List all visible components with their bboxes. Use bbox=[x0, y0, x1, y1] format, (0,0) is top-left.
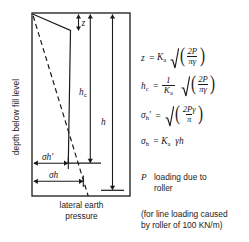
fraction-1-over-Ka: 1 Ka bbox=[162, 76, 175, 97]
footnote-line-2: by roller of 100 KN/m) bbox=[141, 220, 249, 231]
fraction-denominator-Ka: Ka bbox=[162, 85, 175, 96]
caption-line-2: pressure bbox=[32, 211, 131, 222]
legend-description: loading due to roller bbox=[154, 172, 207, 193]
formula-sigma-h-equals: = bbox=[153, 136, 158, 146]
left-paren: ( bbox=[175, 105, 180, 127]
right-paren: ) bbox=[200, 47, 205, 69]
formula-sigma-h-prime: σh′ = ( 2Pγ π ) bbox=[141, 101, 249, 130]
z-arrow-head-top bbox=[76, 14, 81, 18]
formula-hc-lhs: hc bbox=[141, 81, 149, 92]
fraction-2Pgamma-over-pi: 2Pγ π bbox=[182, 105, 197, 127]
fraction-2P-over-pi-gamma: 2P πγ bbox=[187, 47, 199, 69]
left-paren: ( bbox=[180, 47, 185, 69]
formula-sigma-h-coefficient: Ka bbox=[161, 136, 170, 147]
formula-z-coefficient: Ka bbox=[157, 52, 166, 63]
formula-z-lhs: z bbox=[141, 53, 145, 63]
formula-list: z = Ka ( 2P πγ ) hc = 1 Ka bbox=[141, 44, 249, 152]
h-arrow-head-bottom bbox=[110, 186, 115, 190]
formula-hc-equals: = bbox=[153, 81, 158, 91]
formula-sigma-h-lhs: σh bbox=[141, 136, 149, 147]
caption-line-1: lateral earth bbox=[32, 200, 131, 211]
formula-sigma-h: σh = Ka γh bbox=[141, 130, 249, 152]
right-paren: ) bbox=[210, 75, 215, 97]
legend-description-line-2: roller bbox=[154, 183, 173, 193]
sqrt-icon: ( 2Pγ π ) bbox=[165, 105, 204, 127]
hc-arrow-head-bottom bbox=[88, 159, 93, 163]
formula-sigma-h-rest: γh bbox=[175, 136, 183, 146]
sigma-h-prime-arrow-left bbox=[33, 161, 37, 166]
h-label: h bbox=[101, 117, 106, 127]
left-paren: ( bbox=[191, 75, 196, 97]
footnote-line-1: (for line loading caused bbox=[141, 209, 249, 220]
hc-arrow-head-top bbox=[88, 14, 93, 18]
legend-description-line-1: loading due to bbox=[154, 172, 207, 182]
y-axis-label: depth below fill level bbox=[11, 67, 21, 167]
hc-label: hc bbox=[79, 87, 87, 98]
diagram-frame bbox=[32, 13, 130, 196]
formula-sigma-h-prime-lhs: σh′ bbox=[141, 110, 151, 121]
sqrt-icon: ( 2P πγ ) bbox=[170, 47, 206, 69]
formula-z: z = Ka ( 2P πγ ) bbox=[141, 44, 249, 71]
diagram-root: z hc h σh′ σh depth below fill level lat… bbox=[0, 0, 249, 242]
legend-symbol: P bbox=[141, 172, 154, 193]
fraction-2P-over-pi-gamma: 2P πγ bbox=[197, 75, 209, 97]
sigma-h-label: σh bbox=[49, 170, 59, 180]
diagram-caption: lateral earth pressure bbox=[32, 200, 131, 222]
formula-sigma-h-prime-equals: = bbox=[155, 111, 160, 121]
footnote: (for line loading caused by roller of 10… bbox=[141, 209, 249, 231]
formula-hc: hc = 1 Ka ( 2P πγ ) bbox=[141, 71, 249, 101]
sigma-h-arrow-left bbox=[33, 179, 37, 184]
h-arrow-head-top bbox=[110, 14, 115, 18]
right-paren: ) bbox=[198, 105, 203, 127]
active-pressure-line-dashed bbox=[33, 16, 88, 196]
pressure-envelope-solid bbox=[33, 14, 71, 163]
z-arrow-head-bottom bbox=[76, 27, 81, 31]
sqrt-icon: ( 2P πγ ) bbox=[181, 75, 217, 97]
z-label: z bbox=[81, 18, 86, 28]
legend-P: P loading due to roller bbox=[141, 172, 249, 193]
formula-z-equals: = bbox=[149, 53, 154, 63]
sigma-h-prime-label: σh′ bbox=[42, 152, 54, 162]
